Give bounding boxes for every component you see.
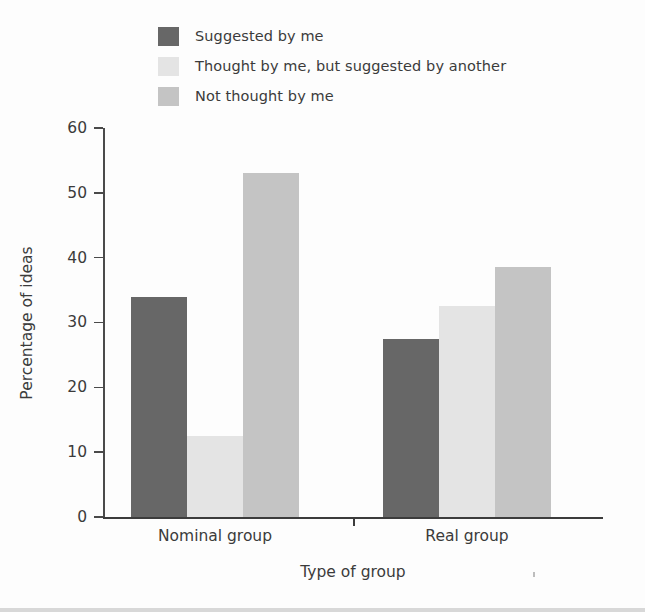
x-axis-category-label: Real group [425,527,508,545]
bar [383,339,439,517]
plot-area: 0102030405060 Nominal groupReal group Pe… [0,0,645,612]
bar [495,267,551,517]
bars-layer [0,0,645,517]
bar [131,297,187,517]
scan-speck [533,572,535,577]
bar [439,306,495,517]
x-axis-title: Type of group [300,563,405,581]
x-axis-mid-tick [353,517,355,526]
y-axis-title: Percentage of ideas [18,246,36,399]
bar [187,436,243,517]
x-axis-category-label: Nominal group [158,527,272,545]
page-bottom-edge [0,608,645,612]
bar [243,173,299,517]
chart-page: Suggested by me Thought by me, but sugge… [0,0,645,612]
